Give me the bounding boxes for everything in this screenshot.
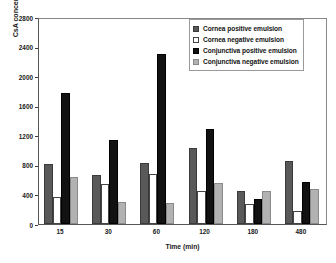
x-tick-label: 480 bbox=[286, 228, 316, 236]
bar bbox=[237, 191, 246, 224]
bar bbox=[206, 129, 215, 224]
bar-group bbox=[39, 19, 87, 224]
y-tick-label: 1600 bbox=[19, 103, 33, 110]
chart-legend: Cornea positive emulsionCornea negative … bbox=[189, 19, 304, 71]
bar-group bbox=[87, 19, 135, 224]
bar bbox=[140, 163, 149, 224]
bar bbox=[109, 140, 118, 224]
x-tick-label: 180 bbox=[238, 228, 268, 236]
x-tick-label: 120 bbox=[190, 228, 220, 236]
legend-swatch-icon bbox=[193, 37, 199, 43]
x-tick-label: 60 bbox=[141, 228, 171, 236]
legend-swatch-icon bbox=[193, 59, 199, 65]
bar-group bbox=[135, 19, 183, 224]
y-tick-label: 0 bbox=[29, 222, 33, 229]
y-tick-label: 400 bbox=[22, 192, 33, 199]
bar bbox=[293, 211, 302, 224]
y-tick-mark bbox=[35, 225, 38, 226]
legend-swatch-icon bbox=[193, 48, 199, 54]
bar bbox=[189, 148, 198, 224]
legend-item: Conjunctiva negative emulsion bbox=[193, 56, 299, 67]
bar bbox=[92, 175, 101, 224]
bar bbox=[262, 191, 271, 224]
legend-item: Conjunctiva positive emulsion bbox=[193, 45, 299, 56]
y-tick-label: 1200 bbox=[19, 133, 33, 140]
bar bbox=[245, 204, 254, 224]
x-axis-title: Time (min) bbox=[38, 243, 327, 250]
bar bbox=[254, 199, 263, 225]
y-tick-label: 800 bbox=[22, 162, 33, 169]
bar bbox=[70, 177, 79, 224]
y-tick-label: 2400 bbox=[19, 44, 33, 51]
y-tick-label: 2000 bbox=[19, 74, 33, 81]
bar bbox=[44, 164, 53, 224]
legend-label: Cornea positive emulsion bbox=[203, 25, 282, 33]
bar bbox=[118, 202, 127, 224]
legend-label: Conjunctiva negative emulsion bbox=[203, 58, 299, 66]
bar bbox=[53, 197, 62, 224]
y-axis-ticks: 040080012001600200024002800 bbox=[0, 0, 36, 263]
x-axis-ticks: 153060120180480 bbox=[38, 228, 327, 240]
legend-item: Cornea positive emulsion bbox=[193, 23, 299, 34]
bar bbox=[149, 174, 158, 224]
bar bbox=[101, 184, 110, 224]
bar bbox=[166, 203, 175, 224]
bar bbox=[61, 93, 70, 224]
legend-item: Cornea negative emulsion bbox=[193, 34, 299, 45]
bar bbox=[285, 161, 294, 224]
bar bbox=[157, 54, 166, 224]
bar bbox=[310, 189, 319, 224]
y-tick-label: 2800 bbox=[19, 15, 33, 22]
bar bbox=[302, 182, 311, 224]
bar bbox=[197, 191, 206, 224]
legend-swatch-icon bbox=[193, 26, 199, 32]
x-tick-label: 15 bbox=[45, 228, 75, 236]
legend-label: Conjunctiva positive emulsion bbox=[203, 47, 297, 55]
bar bbox=[214, 183, 223, 224]
legend-label: Cornea negative emulsion bbox=[203, 36, 284, 44]
bar-chart: CsA concentration, ng/g 0400800120016002… bbox=[0, 0, 336, 263]
x-tick-label: 30 bbox=[93, 228, 123, 236]
